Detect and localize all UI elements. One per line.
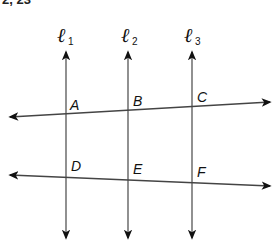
label-l3-subscript: 3 — [195, 36, 201, 47]
label-l1-subscript: 1 — [68, 36, 74, 47]
point-label-b: B — [133, 93, 142, 109]
point-label-c: C — [197, 89, 208, 105]
label-l3: ℓ 3 — [184, 23, 201, 47]
label-l1: ℓ 1 — [57, 23, 74, 47]
label-l3-name: ℓ — [184, 23, 193, 47]
point-label-d: D — [71, 158, 81, 174]
point-label-e: E — [133, 161, 143, 177]
label-l2-name: ℓ — [121, 23, 130, 47]
point-label-a: A — [69, 97, 79, 113]
label-l2-subscript: 2 — [132, 36, 138, 47]
problem-number: 2, 23 — [2, 0, 31, 7]
label-l1-name: ℓ — [57, 23, 66, 47]
label-l2: ℓ 2 — [121, 23, 138, 47]
point-label-f: F — [197, 164, 207, 180]
parallel-lines-diagram: 2, 23 ℓ 1 ℓ 2 ℓ 3 A B C D E F — [0, 0, 280, 243]
